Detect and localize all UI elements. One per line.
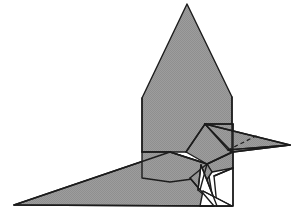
origami-bird-illustration: Origami folded paper bird <box>0 0 296 214</box>
origami-figure-canvas: Origami folded paper bird <box>0 0 296 214</box>
fold-line-tail-bottom-edge <box>14 205 214 206</box>
